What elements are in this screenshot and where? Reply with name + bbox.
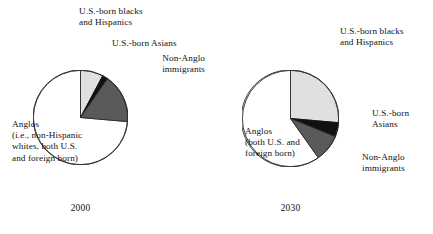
label-anglos-2000: Anglos (i.e., non-Hispanic whites, both … <box>12 119 82 164</box>
label-asians-2030: U.S.-born Asians <box>372 108 409 130</box>
label-non-anglo-immigrants-2030: Non-Anglo immigrants <box>362 152 405 174</box>
label-blacks-hispanics-2000: U.S.-born blacks and Hispanics <box>79 6 143 28</box>
label-non-anglo-immigrants-2000: Non-Anglo immigrants <box>125 53 205 75</box>
year-label-2000: 2000 <box>52 203 109 213</box>
slice-blacks-hispanics-2030 <box>291 70 339 123</box>
label-asians-2000: U.S.-born Asians <box>112 38 177 49</box>
two-pie-figure: U.S.-born blacks and Hispanics U.S.-born… <box>0 0 433 234</box>
label-anglos-2030: Anglos (both U.S. and foreign born) <box>245 126 300 160</box>
year-label-2030: 2030 <box>262 203 319 213</box>
label-blacks-hispanics-2030: U.S.-born blacks and Hispanics <box>340 26 404 48</box>
